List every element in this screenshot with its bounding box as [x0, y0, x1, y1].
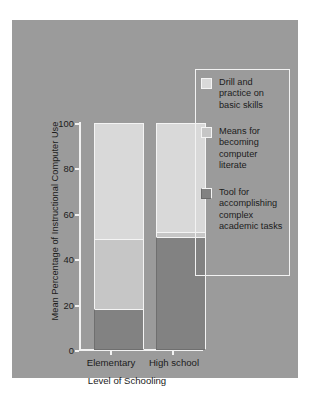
- legend-label-means: Means for becoming computer literate: [219, 126, 287, 172]
- legend-entry-means[interactable]: Means for becoming computer literate: [201, 126, 287, 172]
- chart-plate: Mean Percentage of Instructional Compute…: [12, 20, 298, 378]
- y-tick-40: 40: [50, 255, 74, 264]
- y-tickmark-80: [75, 168, 79, 170]
- y-tickmark-20: [75, 305, 79, 307]
- y-tickmark-60: [75, 214, 79, 216]
- legend-entry-tool[interactable]: Tool for accomplishing complex academic …: [201, 187, 287, 233]
- figure: Mean Percentage of Instructional Compute…: [0, 0, 314, 396]
- legend-label-drill: Drill and practice on basic skills: [219, 77, 287, 111]
- legend-entry-drill[interactable]: Drill and practice on basic skills: [201, 77, 287, 111]
- y-tick-80: 80: [50, 164, 74, 173]
- bar-elementary[interactable]: [94, 123, 144, 350]
- y-tick-0: 0: [50, 346, 74, 355]
- legend-label-tool: Tool for accomplishing complex academic …: [219, 187, 287, 233]
- y-tick-60: 60: [50, 210, 74, 219]
- x-tick-highschool: High school: [143, 357, 205, 368]
- x-tickmark-highschool: [172, 351, 174, 355]
- x-tickmark-elementary: [110, 351, 112, 355]
- bar-segment-elementary-drill[interactable]: [94, 123, 144, 239]
- y-tick-100: 100: [50, 119, 74, 128]
- legend-swatch-icon: [201, 127, 212, 138]
- y-tickmark-0: [75, 350, 79, 352]
- legend: Drill and practice on basic skills Means…: [195, 69, 290, 276]
- legend-swatch-icon: [201, 78, 212, 89]
- y-axis-label: Mean Percentage of Instructional Compute…: [50, 116, 60, 326]
- bar-segment-elementary-tool[interactable]: [94, 309, 144, 350]
- bar-segment-elementary-means[interactable]: [94, 239, 144, 309]
- plot-area: [80, 123, 202, 350]
- y-tick-20: 20: [50, 301, 74, 310]
- y-tickmark-100: [75, 123, 79, 125]
- y-tickmark-40: [75, 259, 79, 261]
- x-tick-elementary: Elementary: [82, 357, 140, 368]
- x-axis-label: Level of Schooling: [52, 375, 202, 386]
- legend-swatch-icon: [201, 188, 212, 199]
